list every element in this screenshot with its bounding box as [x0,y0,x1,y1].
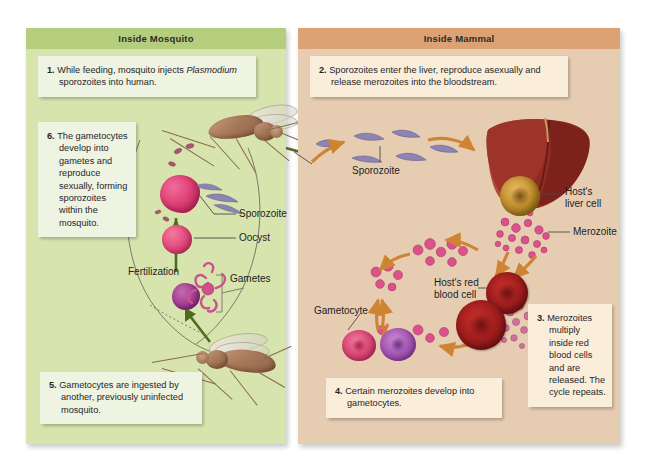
callout-2-text: Sporozoites enter the liver, reproduce a… [329,65,540,87]
label-merozoite: Merozoite [573,226,617,238]
callout-step-2: 2. Sporozoites enter the liver, reproduc… [310,56,568,97]
callout-3-text: Merozoites multiply inside red blood cel… [547,313,605,397]
merozoite-burst-liver [495,210,549,258]
label-sporozoite-mammal: Sporozoite [352,165,400,177]
label-hosts-red-blood-cell-line2: blood cell [434,289,476,301]
callout-step-3: 3. Merozoites multiply inside red blood … [528,304,612,407]
callout-4-text: Certain merozoites develop into gametocy… [345,386,474,408]
label-hosts-red-blood-cell-line1: Host's red [434,277,479,289]
hosts-liver-cell [500,176,540,216]
callout-step-4: 4. Certain merozoites develop into gamet… [326,378,502,418]
gametocyte-female [342,330,376,361]
gametocyte-male [380,328,416,361]
hosts-red-blood-cell [456,300,506,350]
figure-canvas: Inside Mosquito [0,0,646,460]
callout-3-number: 3. [537,313,547,323]
label-gametocyte: Gametocyte [314,305,368,317]
label-hosts-liver-cell-line2: liver cell [565,198,601,210]
callout-4-number: 4. [335,386,345,396]
label-hosts-liver-cell-line1: Host's [565,186,592,198]
callout-2-number: 2. [319,65,329,75]
